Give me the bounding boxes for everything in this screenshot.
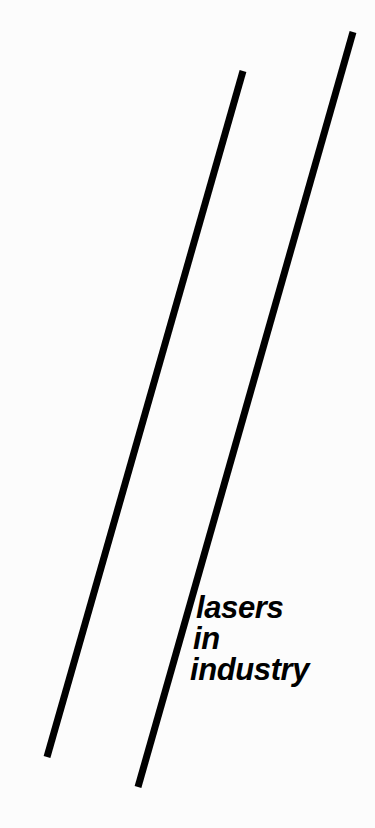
title-line-3: industry [190, 654, 370, 685]
title-line-1: lasers [196, 592, 370, 623]
diagonal-rules-artwork [0, 0, 375, 828]
title-line-2: in [193, 623, 370, 654]
page-title: lasers in industry [190, 592, 370, 685]
cover-canvas: lasers in industry [0, 0, 375, 828]
